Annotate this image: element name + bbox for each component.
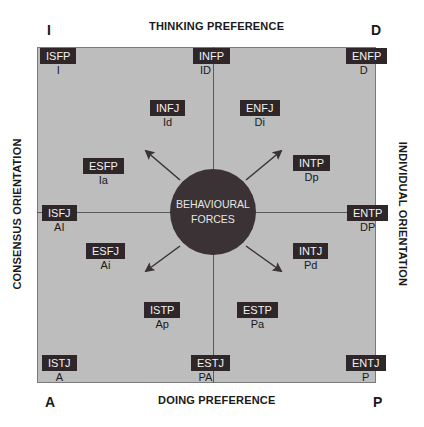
- type-label: ESFJ: [86, 243, 125, 259]
- type-node-intp: INTP Dp: [293, 155, 330, 183]
- arrow-down-right-icon: [246, 246, 281, 271]
- type-label: ENFJ: [240, 100, 280, 116]
- type-code: D: [360, 64, 368, 76]
- type-node-entp: ENTP DP: [347, 205, 388, 233]
- type-code: Ai: [101, 259, 111, 271]
- arrow-down-left-icon: [146, 246, 180, 271]
- type-code: Dp: [305, 171, 319, 183]
- type-label: ISTP: [144, 302, 180, 318]
- type-label: INTJ: [293, 243, 328, 259]
- center-label: BEHAVIOURAL FORCES: [170, 197, 256, 227]
- type-code: Pa: [251, 318, 264, 330]
- arrow-up-left-icon: [146, 151, 180, 180]
- type-label: ESTP: [237, 302, 278, 318]
- type-node-infp: INFP ID: [193, 48, 230, 76]
- type-label: ENTP: [347, 205, 388, 221]
- type-node-estj: ESTJ PA: [191, 355, 230, 383]
- type-code: P: [362, 371, 369, 383]
- type-code: ID: [200, 64, 211, 76]
- type-node-esfj: ESFJ Ai: [86, 243, 125, 271]
- type-node-enfp: ENFP D: [346, 48, 387, 76]
- type-label: ISFJ: [42, 205, 77, 221]
- type-code: Ia: [99, 174, 108, 186]
- type-label: ESTJ: [191, 355, 230, 371]
- center-label-line1: BEHAVIOURAL: [170, 197, 256, 212]
- type-label: ESFP: [83, 158, 124, 174]
- type-label: INFJ: [150, 100, 185, 116]
- center-label-line2: FORCES: [170, 212, 256, 227]
- type-label: ENTJ: [346, 355, 386, 371]
- type-node-intj: INTJ Pd: [293, 243, 328, 271]
- type-node-infj: INFJ Id: [150, 100, 185, 128]
- type-label: ISTJ: [42, 355, 77, 371]
- type-code: Pd: [304, 259, 317, 271]
- type-code: AI: [54, 221, 64, 233]
- type-code: I: [57, 64, 60, 76]
- type-code: Id: [163, 116, 172, 128]
- type-node-estp: ESTP Pa: [237, 302, 278, 330]
- type-label: ENFP: [346, 48, 387, 64]
- type-node-entj: ENTJ P: [346, 355, 386, 383]
- type-label: INFP: [193, 48, 230, 64]
- arrow-up-right-icon: [246, 151, 281, 180]
- type-code: DP: [360, 221, 375, 233]
- type-node-esfp: ESFP Ia: [83, 158, 124, 186]
- type-node-istp: ISTP Ap: [144, 302, 180, 330]
- type-label: INTP: [293, 155, 330, 171]
- type-node-isfp: ISFP I: [40, 48, 76, 76]
- type-code: Ap: [155, 318, 168, 330]
- type-code: A: [56, 371, 63, 383]
- type-code: PA: [199, 371, 213, 383]
- type-node-istj: ISTJ A: [42, 355, 77, 383]
- type-node-enfj: ENFJ Di: [240, 100, 280, 128]
- type-label: ISFP: [40, 48, 76, 64]
- type-code: Di: [255, 116, 265, 128]
- type-node-isfj: ISFJ AI: [42, 205, 77, 233]
